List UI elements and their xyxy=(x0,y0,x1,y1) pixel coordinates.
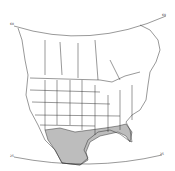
graticule-top xyxy=(14,16,166,36)
map-canvas xyxy=(0,0,175,171)
hatched-region xyxy=(45,124,132,165)
